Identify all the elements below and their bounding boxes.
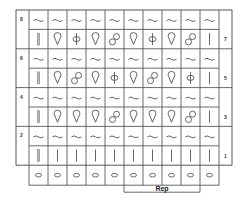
teardrop-icon [92,33,99,45]
wave-icon [91,136,101,138]
oval-icon [131,173,137,177]
row-label-2: 2 [20,132,23,138]
phi-icon [111,72,118,84]
wave-icon [110,58,120,60]
figure-eight-icon [110,111,120,122]
teardrop-icon [73,110,80,122]
figure-eight-icon [148,72,158,83]
wave-icon [34,58,44,60]
wave-icon [110,136,120,138]
phi-icon [73,33,80,45]
wave-icon [186,97,196,99]
wave-icon [205,20,215,22]
wave-icon [205,58,215,60]
oval-icon [169,173,175,177]
knitting-chart [0,0,246,207]
teardrop-icon [92,110,99,122]
wave-icon [72,136,82,138]
wave-icon [91,97,101,99]
wave-icon [129,97,139,99]
oval-icon [55,173,61,177]
teardrop-icon [92,71,99,83]
wave-icon [167,136,177,138]
chart-row-7 [37,33,209,46]
wave-icon [167,20,177,22]
wave-icon [34,20,44,22]
wave-icon [205,97,215,99]
wave-icon [72,97,82,99]
row-label-6: 6 [20,55,23,61]
wave-icon [148,136,158,138]
wave-icon [129,20,139,22]
oval-icon [74,173,80,177]
teardrop-icon [168,71,175,83]
wave-icon [148,20,158,22]
oval-icon [188,173,194,177]
wave-icon [53,136,63,138]
wave-icon [72,20,82,22]
teardrop-icon [149,110,156,122]
row-label-3: 3 [224,114,227,120]
chart-row-5 [37,71,209,83]
teardrop-icon [168,110,175,122]
double-bar-icon [37,111,39,123]
repeat-label: Rep [124,185,200,192]
wave-icon [167,58,177,60]
wave-icon [91,58,101,60]
teardrop-icon [130,71,137,83]
wave-icon [205,136,215,138]
wave-icon [53,20,63,22]
wave-icon [129,58,139,60]
teardrop-icon [54,110,61,122]
wave-icon [186,20,196,22]
teardrop-icon [130,110,137,122]
oval-icon [36,173,42,177]
figure-eight-icon [72,72,82,83]
double-bar-icon [37,150,39,162]
wave-icon [91,20,101,22]
oval-icon [112,173,118,177]
wave-icon [110,20,120,22]
wave-icon [186,136,196,138]
wave-icon [72,58,82,60]
oval-icon [207,173,213,177]
wave-icon [34,136,44,138]
row-label-7: 7 [224,36,227,42]
figure-eight-icon [110,34,120,45]
oval-icon [150,173,156,177]
chart-row-3 [37,110,209,123]
phi-icon [187,72,194,84]
wave-icon [53,97,63,99]
wave-icon [186,58,196,60]
wave-icon [148,97,158,99]
double-bar-icon [37,33,39,45]
row-label-8: 8 [20,16,23,22]
row-label-5: 5 [224,75,227,81]
teardrop-icon [168,33,175,45]
chart-row-1 [37,150,209,162]
teardrop-icon [54,33,61,45]
wave-icon [34,97,44,99]
wave-icon [148,58,158,60]
row-label-1: 1 [224,153,227,159]
phi-icon [149,33,156,45]
wave-icon [110,97,120,99]
teardrop-icon [130,33,137,45]
oval-icon [93,173,99,177]
wave-icon [167,97,177,99]
figure-eight-icon [186,34,196,45]
wave-icon [53,58,63,60]
wave-icon [129,136,139,138]
row-label-4: 4 [20,94,23,100]
figure-eight-icon [186,111,196,122]
teardrop-icon [54,71,61,83]
double-bar-icon [37,72,39,84]
